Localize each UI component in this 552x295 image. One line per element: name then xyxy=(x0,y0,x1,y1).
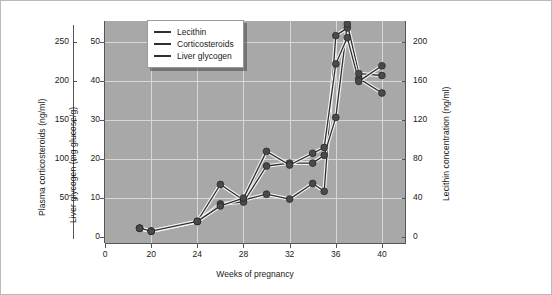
legend-line-icon xyxy=(154,55,171,57)
tick-label-x: 24 xyxy=(185,250,209,259)
tick-label-corticosteroids: 250 xyxy=(43,37,69,46)
legend-item-lecithin[interactable]: Lecithin xyxy=(154,26,234,38)
data-point-marker xyxy=(309,160,316,167)
data-point-marker xyxy=(379,62,386,69)
data-point-marker xyxy=(321,144,328,151)
tick-label-lecithin: 120 xyxy=(413,115,427,124)
axis-line-glycogen xyxy=(104,21,105,243)
tick-label-corticosteroids: 200 xyxy=(43,76,69,85)
tick-label-lecithin: 80 xyxy=(413,154,422,163)
data-point-marker xyxy=(217,203,224,210)
tick-label-glycogen: 0 xyxy=(74,232,100,241)
tick-label-lecithin: 200 xyxy=(413,37,427,46)
legend-line-icon xyxy=(154,43,171,45)
legend-label: Lecithin xyxy=(177,26,206,38)
data-point-marker xyxy=(344,21,351,27)
tick-mark-glycogen xyxy=(100,42,104,43)
data-point-marker xyxy=(332,61,339,68)
legend-label: Liver glycogen xyxy=(177,50,232,62)
tick-mark-x xyxy=(336,244,337,248)
tick-label-x: 0 xyxy=(93,250,117,259)
tick-mark-glycogen xyxy=(100,159,104,160)
data-point-marker xyxy=(148,228,155,235)
tick-label-x: 36 xyxy=(324,250,348,259)
tick-mark-glycogen xyxy=(100,237,104,238)
data-point-marker xyxy=(286,162,293,169)
legend-item-corticosteroids[interactable]: Corticosteroids xyxy=(154,38,234,50)
legend-line-icon xyxy=(154,31,171,33)
tick-mark-lecithin xyxy=(402,237,406,238)
data-point-marker xyxy=(286,196,293,203)
tick-label-lecithin: 0 xyxy=(413,232,418,241)
axis-title-glycogen: Liver glycogen (mg glucose/g) xyxy=(68,107,78,223)
data-point-marker xyxy=(263,163,270,170)
tick-mark-x xyxy=(197,244,198,248)
tick-mark-lecithin xyxy=(402,42,406,43)
tick-mark-glycogen xyxy=(100,198,104,199)
tick-label-glycogen: 50 xyxy=(74,37,100,46)
data-point-marker xyxy=(136,225,143,232)
axis-title-x: Weeks of pregnancy xyxy=(105,269,405,279)
tick-mark-x xyxy=(290,244,291,248)
tick-label-x: 20 xyxy=(139,250,163,259)
legend-label: Corticosteroids xyxy=(177,38,234,50)
tick-mark-x xyxy=(151,244,152,248)
tick-label-x: 32 xyxy=(278,250,302,259)
data-point-marker xyxy=(355,78,362,85)
tick-label-x: 28 xyxy=(231,250,255,259)
data-point-marker xyxy=(355,70,362,77)
axis-title-corticosteroids: Plasma corticosteroids (ng/ml) xyxy=(37,99,47,216)
data-point-marker xyxy=(332,32,339,39)
tick-label-lecithin: 40 xyxy=(413,193,422,202)
axis-line-lecithin xyxy=(405,21,406,243)
legend-item-liver-glycogen[interactable]: Liver glycogen xyxy=(154,50,234,62)
tick-mark-x xyxy=(243,244,244,248)
data-point-marker xyxy=(379,72,386,79)
tick-label-x: 40 xyxy=(370,250,394,259)
figure-container: 5010015020025001020304050040801201602000… xyxy=(0,0,552,295)
data-point-marker xyxy=(321,152,328,159)
data-point-marker xyxy=(263,191,270,198)
tick-label-lecithin: 160 xyxy=(413,76,427,85)
axis-title-lecithin: Lecithin concentration (ng/ml) xyxy=(441,87,451,202)
data-point-marker xyxy=(194,218,201,225)
tick-mark-x xyxy=(105,244,106,248)
tick-mark-glycogen xyxy=(100,81,104,82)
data-point-marker xyxy=(263,148,270,155)
data-point-marker xyxy=(379,90,386,97)
tick-label-glycogen: 40 xyxy=(74,76,100,85)
legend: Lecithin Corticosteroids Liver glycogen xyxy=(147,20,244,68)
data-point-marker xyxy=(321,188,328,195)
tick-mark-lecithin xyxy=(402,159,406,160)
tick-mark-lecithin xyxy=(402,120,406,121)
tick-mark-glycogen xyxy=(100,120,104,121)
data-point-marker xyxy=(240,195,247,202)
tick-mark-lecithin xyxy=(402,198,406,199)
tick-mark-x xyxy=(382,244,383,248)
data-point-marker xyxy=(217,181,224,188)
data-point-marker xyxy=(332,114,339,121)
data-point-marker xyxy=(344,34,351,41)
tick-mark-lecithin xyxy=(402,81,406,82)
data-point-marker xyxy=(309,150,316,157)
data-point-marker xyxy=(309,180,316,187)
